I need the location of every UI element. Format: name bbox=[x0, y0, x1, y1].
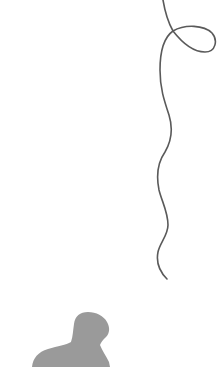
looping-string bbox=[157, 0, 215, 279]
illustration-svg bbox=[0, 0, 222, 367]
person-silhouette bbox=[32, 312, 110, 367]
illustration-canvas bbox=[0, 0, 222, 367]
